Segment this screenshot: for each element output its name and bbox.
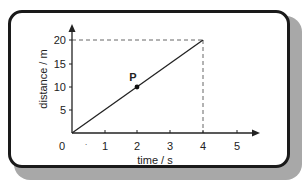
point-p-label: P	[129, 71, 136, 83]
x-tick-label: 0	[59, 140, 65, 152]
distance-time-chart: 5 10 15 20 0 · 1 2 3 4 5 time / s distan…	[0, 0, 305, 183]
point-p-marker	[135, 85, 140, 90]
x-tick-label: 1	[102, 140, 108, 152]
x-axis-title: time / s	[137, 154, 173, 166]
x-tick-label: 5	[234, 140, 240, 152]
x-tick-label: 3	[167, 140, 173, 152]
x-tick-label: 4	[200, 140, 206, 152]
x-tick-label: 2	[134, 140, 140, 152]
y-tick-label: 15	[54, 58, 66, 70]
x-axis-arrow-icon	[252, 130, 260, 137]
y-tick-label: 5	[60, 104, 66, 116]
y-axis-title: distance / m	[37, 49, 49, 108]
minor-dot: ·	[85, 140, 88, 149]
y-tick-label: 10	[54, 81, 66, 93]
y-tick-label: 20	[54, 34, 66, 46]
y-axis-arrow-icon	[69, 24, 76, 32]
